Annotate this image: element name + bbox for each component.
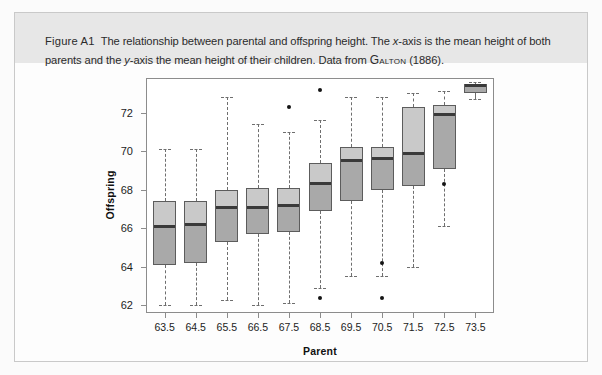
whisker-cap-upper	[469, 82, 481, 83]
y-axis-title: Offspring	[104, 170, 116, 219]
x-tick-label: 73.5	[458, 321, 492, 333]
x-tick-label: 67.5	[272, 321, 306, 333]
x-tick-label: 69.5	[334, 321, 368, 333]
x-tick-mark	[351, 313, 352, 318]
y-tick-mark	[141, 190, 146, 191]
y-tick-label: 70	[105, 145, 133, 157]
y-tick-mark	[141, 228, 146, 229]
x-tick-mark	[382, 313, 383, 318]
y-tick-label: 62	[105, 299, 133, 311]
y-tick-mark	[141, 267, 146, 268]
y-tick-mark	[141, 151, 146, 152]
figure-caption-band: Figure A1 The relationship between paren…	[15, 13, 587, 63]
x-tick-mark	[227, 313, 228, 318]
x-tick-mark	[289, 313, 290, 318]
x-tick-label: 70.5	[365, 321, 399, 333]
whisker-cap-lower	[469, 99, 481, 100]
y-tick-label: 66	[105, 222, 133, 234]
figure-label: Figure A1	[45, 35, 95, 47]
x-tick-label: 72.5	[427, 321, 461, 333]
y-tick-label: 64	[105, 261, 133, 273]
x-tick-label: 63.5	[148, 321, 182, 333]
caption-segment-1: The relationship between parental and of…	[101, 35, 393, 47]
chart-region: 62646668707263.564.565.566.567.568.569.5…	[0, 62, 602, 362]
x-tick-label: 71.5	[396, 321, 430, 333]
x-tick-label: 65.5	[210, 321, 244, 333]
x-tick-mark	[444, 313, 445, 318]
x-tick-label: 64.5	[179, 321, 213, 333]
y-tick-mark	[141, 113, 146, 114]
x-tick-mark	[475, 313, 476, 318]
y-tick-label: 72	[105, 107, 133, 119]
x-tick-mark	[413, 313, 414, 318]
x-axis-title: Parent	[303, 345, 337, 357]
x-tick-label: 66.5	[241, 321, 275, 333]
x-tick-mark	[258, 313, 259, 318]
x-tick-mark	[165, 313, 166, 318]
screenshot-root: Figure A1 The relationship between paren…	[0, 0, 602, 375]
x-tick-mark	[320, 313, 321, 318]
boxplot-canvas	[146, 78, 494, 313]
x-tick-mark	[196, 313, 197, 318]
boxplot-73.5	[146, 78, 494, 313]
x-tick-label: 68.5	[303, 321, 337, 333]
median-line	[465, 84, 486, 87]
y-tick-mark	[141, 305, 146, 306]
